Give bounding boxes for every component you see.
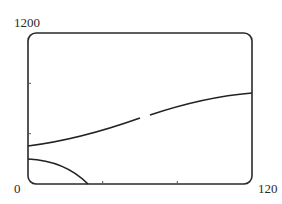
lower-curve [28,159,88,184]
y-max-label: 1200 [14,15,40,30]
x-max-label: 120 [258,181,278,196]
upper-curve-segment-2 [150,93,252,115]
chart: 1200 0 120 [0,0,282,204]
origin-label: 0 [14,181,21,196]
upper-curve-segment-1 [28,118,140,146]
plot-frame [28,33,252,184]
